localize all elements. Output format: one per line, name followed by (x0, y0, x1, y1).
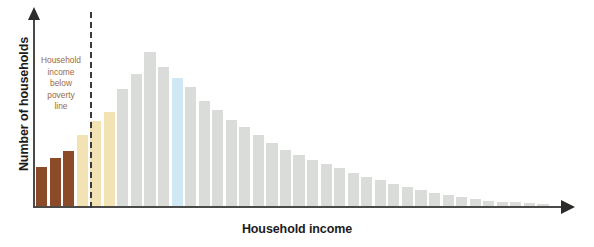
bar (470, 199, 481, 206)
bar (293, 155, 304, 206)
bar (537, 204, 548, 206)
bar (361, 177, 372, 206)
bar (212, 110, 223, 206)
annotation-line-5: line (34, 101, 88, 113)
bar (334, 168, 345, 206)
bar (280, 150, 291, 206)
bar (510, 202, 521, 206)
bar (321, 164, 332, 206)
bar (415, 190, 426, 206)
bar (375, 180, 386, 206)
bar (307, 160, 318, 206)
bar (131, 74, 142, 206)
bar (524, 203, 535, 206)
bar (497, 202, 508, 206)
annotation-line-2: income (34, 67, 88, 79)
histogram-chart: Household income below poverty line Numb… (0, 0, 594, 247)
bar (456, 197, 467, 206)
bar (253, 135, 264, 206)
bar (50, 158, 61, 206)
bar (226, 120, 237, 206)
annotation-line-4: poverty (34, 90, 88, 102)
bar (429, 193, 440, 206)
bar (185, 87, 196, 206)
bar (63, 151, 74, 206)
bar (144, 52, 155, 206)
bar (388, 184, 399, 206)
x-axis-title: Household income (0, 222, 594, 236)
bar (172, 78, 183, 206)
bar (199, 101, 210, 206)
bar (483, 201, 494, 206)
y-axis-title: Number of households (17, 4, 31, 204)
bar (104, 112, 115, 206)
poverty-threshold-line (90, 12, 92, 208)
poverty-line-annotation: Household income below poverty line (34, 55, 88, 113)
annotation-line-1: Household (34, 55, 88, 67)
bar (402, 187, 413, 206)
bar (348, 173, 359, 206)
bar (36, 167, 47, 206)
annotation-line-3: below (34, 78, 88, 90)
bar (443, 195, 454, 206)
bar (158, 67, 169, 206)
bar (239, 127, 250, 206)
bar (77, 135, 88, 206)
bar (117, 89, 128, 206)
bar (266, 143, 277, 206)
